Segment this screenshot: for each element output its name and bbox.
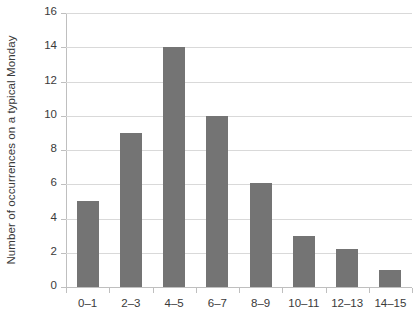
y-tick-label-10: 10 [22, 108, 57, 120]
x-tick-label: 14–15 [360, 297, 420, 309]
y-tick-label-8: 8 [22, 142, 57, 154]
x-tick-mark [239, 288, 240, 293]
bar [206, 116, 228, 287]
x-tick-mark [412, 288, 413, 293]
y-tick-label-12: 12 [22, 74, 57, 86]
bar [77, 201, 99, 287]
gridline-14 [66, 47, 412, 48]
bar-chart: Number of occurrences on a typical Monda… [0, 0, 420, 326]
x-tick-mark [109, 288, 110, 293]
y-tick-label-6: 6 [22, 176, 57, 188]
x-tick-mark [66, 288, 67, 293]
y-axis-title: Number of occurrences on a typical Monda… [0, 0, 22, 300]
y-tick-label-2: 2 [22, 245, 57, 257]
x-tick-mark [369, 288, 370, 293]
gridline-6 [66, 184, 412, 185]
gridline-10 [66, 116, 412, 117]
x-tick-mark [326, 288, 327, 293]
bar [336, 249, 358, 287]
x-tick-mark [282, 288, 283, 293]
bar [293, 236, 315, 287]
x-tick-mark [153, 288, 154, 293]
y-axis-title-text: Number of occurrences on a typical Monda… [5, 35, 17, 264]
gridline-16 [66, 13, 412, 14]
x-tick-mark [196, 288, 197, 293]
plot-area [66, 13, 412, 287]
gridline-12 [66, 82, 412, 83]
gridline-4 [66, 219, 412, 220]
bar [379, 270, 401, 287]
y-tick-label-4: 4 [22, 211, 57, 223]
bar [163, 47, 185, 287]
y-tick-label-0: 0 [22, 279, 57, 291]
gridline-8 [66, 150, 412, 151]
y-tick-label-14: 14 [22, 39, 57, 51]
gridline-2 [66, 253, 412, 254]
bar [250, 183, 272, 287]
bar [120, 133, 142, 287]
y-tick-label-16: 16 [22, 5, 57, 17]
